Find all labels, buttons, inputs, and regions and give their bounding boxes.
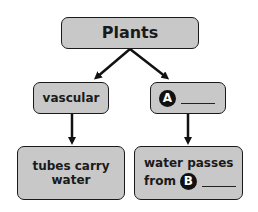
blank-line-b [202,176,236,187]
tubes-text: tubes carry water [32,159,109,188]
root-label: Plants [102,23,159,42]
node-vascular: vascular [33,82,109,114]
arrow-to-a [130,49,166,77]
marker-b: B [180,173,197,190]
passes-line1: water passes [144,156,233,170]
node-tubes-carry-water: tubes carry water [17,146,125,200]
blank-line-a [181,93,215,104]
marker-a: A [159,90,176,107]
arrow-to-vascular [97,49,130,77]
node-a-blank: A [150,82,226,114]
vascular-label: vascular [43,91,100,105]
node-water-passes: water passes from B [134,146,243,200]
root-node-plants: Plants [61,17,199,49]
passes-line2: from B [144,173,236,190]
